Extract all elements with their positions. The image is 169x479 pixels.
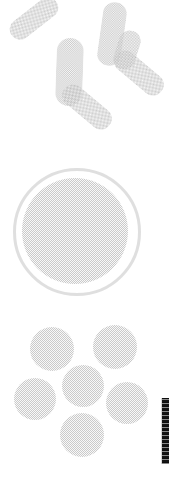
group-cocci-cluster: Spherical bacteria (cocci) cluster <box>0 310 169 479</box>
group-bacilli: Rod-shaped bacteria (bacilli) <box>0 0 169 150</box>
scale-strip: Scale bar <box>161 398 169 464</box>
group-cocci-label: Spherical bacteria (cocci) cluster <box>0 310 1 311</box>
rod-1 <box>5 0 62 44</box>
coccus-5 <box>106 382 148 424</box>
coccus-6 <box>60 413 104 457</box>
coccus-1 <box>30 327 74 371</box>
figure-canvas: Bacterial morphology panel Rod-shaped ba… <box>0 0 169 479</box>
coccus-4 <box>14 378 56 420</box>
coccus-2 <box>93 325 137 369</box>
coccus-3 <box>62 365 104 407</box>
scale-strip-label: Scale bar <box>162 398 163 399</box>
group-encapsulated-coccus: Encapsulated coccus with capsule halo <box>0 160 169 300</box>
group-capsule-label: Encapsulated coccus with capsule halo <box>0 160 1 161</box>
rod-5 <box>58 80 117 134</box>
coccus-body <box>22 178 128 284</box>
group-bacilli-label: Rod-shaped bacteria (bacilli) <box>0 0 1 1</box>
